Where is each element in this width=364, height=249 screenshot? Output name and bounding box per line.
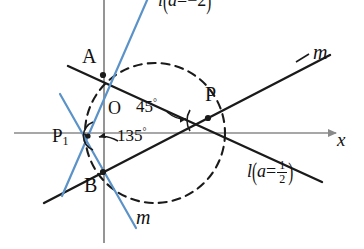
point-P1-dot (85, 133, 90, 138)
eq-l-top-open-paren: ( (163, 0, 168, 14)
point-B-dot (100, 169, 106, 175)
point-A-dot (100, 72, 106, 78)
equation-label-l-half: l(a=12) (247, 160, 293, 186)
point-label-p1: P1 (52, 126, 69, 147)
point-P-dot (205, 115, 211, 121)
line-label-m-bottom: m (136, 207, 150, 227)
origin-label: O (108, 99, 121, 117)
eq-l-bottom-open-paren: ( (252, 160, 257, 186)
equation-label-l-neg2: l(a=−2) (158, 0, 211, 9)
eq-l-top-value: −2 (187, 0, 206, 10)
eq-l-bottom-equals: = (266, 161, 276, 181)
fraction-numerator: 1 (277, 159, 287, 173)
degree-symbol-icon: ° (143, 126, 147, 137)
point-label-p1-base: P (52, 125, 63, 146)
eq-l-top-var: a (168, 0, 177, 10)
eq-l-bottom-fraction: 12 (277, 159, 287, 185)
degree-symbol-icon: ° (153, 97, 157, 108)
eq-l-top-equals: = (177, 0, 187, 10)
eq-l-bottom-close-paren: ) (288, 160, 293, 186)
angle-label-135: 135° (117, 127, 147, 144)
angle-label-135-value: 135 (117, 126, 143, 145)
point-label-p: P (205, 84, 216, 104)
leader-m-top (296, 54, 309, 62)
angle-label-45-value: 45 (136, 97, 153, 116)
eq-l-bottom-var: a (257, 161, 266, 181)
x-axis-label: x (337, 130, 345, 149)
leader-arrow-135 (99, 137, 118, 142)
point-label-b: B (84, 175, 97, 195)
axis-group (14, 0, 336, 243)
eq-l-top-close-paren: ) (206, 0, 211, 14)
angle-label-45: 45° (136, 98, 157, 115)
point-label-a: A (82, 46, 96, 66)
line-label-m-top: m (313, 42, 327, 62)
point-label-p1-subscript: 1 (63, 134, 69, 148)
fraction-denominator: 2 (277, 173, 287, 186)
